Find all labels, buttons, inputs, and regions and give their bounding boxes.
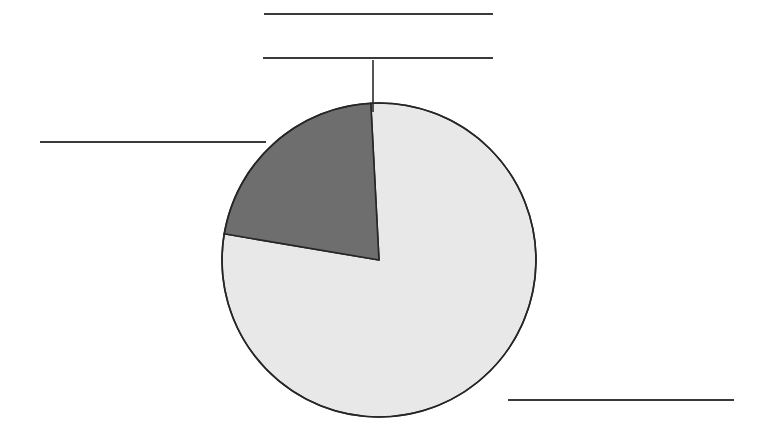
annotation-label-top-1-text	[264, 13, 265, 14]
chart-canvas	[0, 0, 767, 434]
pie-slice-small[interactable]	[224, 103, 379, 260]
annotation-label-bottom-right-text	[508, 399, 509, 400]
pie-chart-figure	[0, 0, 767, 434]
annotation-label-left	[40, 141, 266, 143]
annotation-label-top-1	[264, 13, 493, 15]
annotation-label-bottom-right	[508, 399, 734, 401]
annotation-label-left-text	[40, 141, 41, 142]
annotation-label-top-2-text	[263, 57, 264, 58]
annotation-label-top-2	[263, 57, 493, 59]
